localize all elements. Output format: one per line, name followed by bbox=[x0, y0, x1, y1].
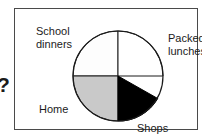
pie-label-home: Home bbox=[39, 103, 68, 116]
pie-label-shops: Shops bbox=[137, 122, 168, 135]
screenshot-root: ? School dinners Packed lunches Home Sho… bbox=[0, 0, 202, 136]
figure-border-box: School dinners Packed lunches Home Shops bbox=[14, 8, 198, 130]
pie-slice-school-dinners[interactable] bbox=[73, 31, 118, 76]
pie-label-school-dinners: School dinners bbox=[36, 25, 72, 50]
pie-slice-shops[interactable] bbox=[118, 76, 158, 121]
question-mark-marker: ? bbox=[0, 74, 10, 95]
pie-chart-svg bbox=[72, 30, 164, 122]
pie-slice-packed-lunches[interactable] bbox=[118, 31, 163, 76]
pie-label-packed-lunches: Packed lunches bbox=[168, 32, 202, 57]
pie-chart bbox=[72, 30, 164, 122]
pie-slice-home[interactable] bbox=[73, 76, 118, 121]
